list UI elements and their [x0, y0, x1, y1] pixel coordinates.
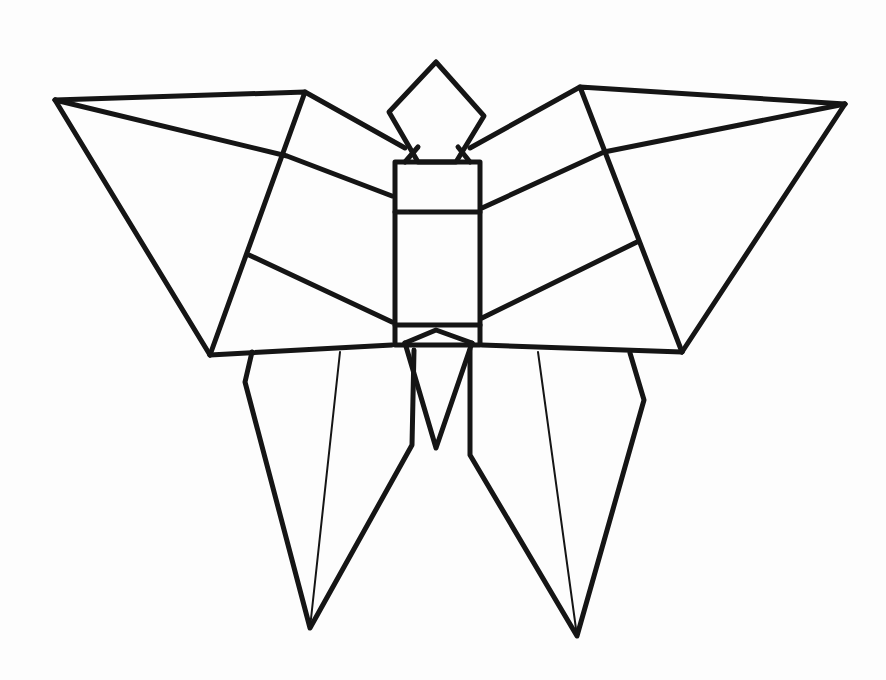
fold-line	[470, 87, 580, 148]
fold-line	[55, 100, 210, 355]
right-upper-wing	[470, 87, 845, 352]
fold-line	[482, 345, 682, 352]
fold-line	[405, 330, 472, 343]
fold-line	[682, 104, 845, 352]
fold-line	[210, 345, 392, 355]
butterfly-drawing	[0, 0, 886, 680]
left-upper-wing	[55, 92, 405, 355]
fold-line	[482, 242, 637, 318]
fold-line	[305, 92, 405, 148]
left-lower-wing	[245, 350, 414, 628]
fold-line	[245, 350, 414, 628]
fold-line	[580, 87, 845, 352]
body-segment	[395, 162, 480, 345]
fold-line	[249, 255, 392, 322]
fold-line	[538, 352, 577, 636]
right-lower-wing	[470, 350, 644, 636]
fold-line	[482, 104, 845, 208]
fold-line	[395, 162, 480, 345]
